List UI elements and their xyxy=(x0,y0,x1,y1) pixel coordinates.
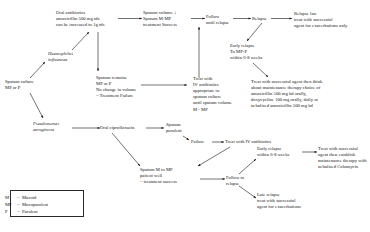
flowchart-diagram: Oral antibiotics amoxicillin 500 mg tds … xyxy=(0,0,370,232)
legend-key-m: M xyxy=(5,196,9,201)
node-oral-ciprofloxacin: Oral ciprofloxacin xyxy=(100,125,146,131)
legend-value-m: Mucoid xyxy=(22,196,36,201)
node-oral-antibiotics: Oral antibiotics amoxicillin 500 mg tds … xyxy=(56,10,118,28)
node-sputum-volume-success: Sputum volume ↓ Sputum M-MP treatment Su… xyxy=(143,10,193,28)
node-sputum-purulent: Sputum purulent xyxy=(166,122,192,134)
legend-value-p: Purulent xyxy=(22,210,38,215)
node-sputum-remains: Sputum remains MP or P No change in volu… xyxy=(96,75,144,99)
node-relapse: Relapse xyxy=(252,16,276,22)
node-sputum-culture: Sputum culture MP or P xyxy=(5,79,49,91)
node-pseudomonas-aeruginosa: Pseudomonas aeruginosa xyxy=(33,121,75,133)
node-sputum-m-to-mp: Sputum M to MP patient well = treatment … xyxy=(140,167,196,185)
node-early-relapse-2: Early relapse within 6-8 weeks xyxy=(257,146,305,158)
legend-eq-mp: = xyxy=(17,203,20,208)
node-follow-until-relapse: Follow until relapse xyxy=(206,14,236,26)
node-failure: Failure xyxy=(191,139,213,145)
node-haemophilus-influenzae: Haemophilus influenzae xyxy=(48,51,92,63)
node-follow-to-relapse: Follow to relapse xyxy=(226,175,254,187)
node-treat-with-iv-antibiotics-short: Treat with IV antibiotics xyxy=(225,139,289,145)
legend-value-mp: Mucopurulent xyxy=(22,203,48,208)
node-colomycin-maintenance: Treat with successful agent then establi… xyxy=(318,146,370,170)
node-late-relapse: Late relapse treat with successful agent… xyxy=(257,192,319,210)
legend-key-mp: MP xyxy=(5,203,12,208)
node-relapse-late: Relapse late treat with successful agent… xyxy=(294,11,366,29)
legend-eq-p: = xyxy=(17,210,20,215)
legend-eq-m: = xyxy=(17,196,20,201)
node-treat-with-iv-antibiotics: Treat with IV antibiotics appropriate to… xyxy=(193,76,237,113)
node-early-relapse: Early relapse To MP-P within 6-8 weeks xyxy=(230,43,280,61)
legend-key-p: P xyxy=(5,210,8,215)
node-maintenance-therapy: Treat with successful agent then think a… xyxy=(251,79,367,110)
